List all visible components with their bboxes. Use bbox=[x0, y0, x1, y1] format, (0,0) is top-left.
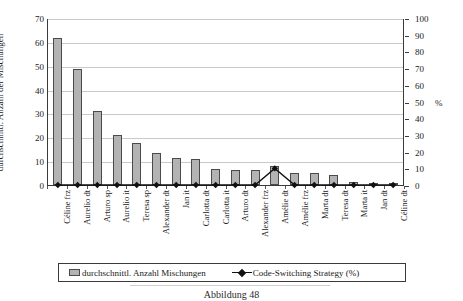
y-tick-label: 10 bbox=[35, 158, 44, 167]
line-marker-icon bbox=[232, 269, 252, 277]
x-label-slot: Céline frz bbox=[47, 188, 67, 254]
x-label-slot: Aurelio dt bbox=[67, 188, 87, 254]
bar-swatch-icon bbox=[69, 269, 80, 276]
y2-tick-label: 100 bbox=[415, 15, 429, 24]
x-label-slot: Jan dt bbox=[364, 188, 384, 254]
y2-tick-mark bbox=[405, 69, 409, 70]
y-tick-label: 70 bbox=[35, 15, 44, 24]
plot-area bbox=[47, 19, 404, 186]
y2-tick-mark bbox=[405, 52, 409, 53]
y2-tick-label: 40 bbox=[415, 115, 424, 124]
y2-tick-label: 0 bbox=[415, 182, 420, 191]
chart-figure: durchschnittl. Anzahl der Mischungen 010… bbox=[0, 0, 463, 301]
y2-tick-mark bbox=[405, 86, 409, 87]
legend-item-line: Code-Switching Strategy (%) bbox=[232, 268, 359, 278]
x-label-slot: Amélie frz bbox=[285, 188, 305, 254]
y2-tick-label: 50 bbox=[415, 98, 424, 107]
line-path bbox=[58, 168, 393, 185]
x-label-slot: Céline dt bbox=[384, 188, 404, 254]
chart-legend: durchschnittl. Anzahl Mischungen Code-Sw… bbox=[58, 263, 406, 282]
percent-axis-label: % bbox=[435, 98, 443, 107]
legend-label-line: Code-Switching Strategy (%) bbox=[253, 268, 359, 278]
legend-label-bars: durchschnittl. Anzahl Mischungen bbox=[82, 268, 206, 278]
x-label-slot: Carlotta it bbox=[206, 188, 226, 254]
y-tick-label: 0 bbox=[40, 182, 45, 191]
y2-tick-mark bbox=[405, 169, 409, 170]
x-label-slot: Alexander dt bbox=[146, 188, 166, 254]
x-label-slot: Alexander frz bbox=[245, 188, 265, 254]
x-label-slot: Teresa dt bbox=[325, 188, 345, 254]
y-tick-label: 30 bbox=[35, 110, 44, 119]
x-label-slot: Amélie dt bbox=[265, 188, 285, 254]
x-label-slot: Arturo sp bbox=[87, 188, 107, 254]
x-label-slot: Teresa sp bbox=[126, 188, 146, 254]
y2-tick-label: 10 bbox=[415, 165, 424, 174]
y2-tick-label: 70 bbox=[415, 65, 424, 74]
y2-tick-mark bbox=[405, 136, 409, 137]
y-axis-left: 010203040506070 bbox=[18, 19, 44, 186]
y2-tick-label: 60 bbox=[415, 81, 424, 90]
x-label-slot: Jan it bbox=[166, 188, 186, 254]
y2-tick-label: 80 bbox=[415, 48, 424, 57]
y2-tick-mark bbox=[405, 153, 409, 154]
x-tick bbox=[404, 186, 405, 189]
y2-tick-label: 30 bbox=[415, 131, 424, 140]
legend-item-bars: durchschnittl. Anzahl Mischungen bbox=[69, 268, 206, 278]
y2-tick-label: 20 bbox=[415, 148, 424, 157]
y-tick-label: 40 bbox=[35, 86, 44, 95]
y-axis-right: 0102030405060708090100% bbox=[409, 19, 439, 186]
y2-tick-mark bbox=[405, 36, 409, 37]
figure-caption: Abbildung 48 bbox=[0, 289, 463, 301]
y2-tick-mark bbox=[405, 119, 409, 120]
y-tick-label: 20 bbox=[35, 134, 44, 143]
y2-tick-mark bbox=[405, 186, 409, 187]
x-label-slot: Carlotta dt bbox=[186, 188, 206, 254]
x-label-slot: Marta dt bbox=[305, 188, 325, 254]
y-tick-label: 60 bbox=[35, 38, 44, 47]
y-axis-title: durchschnittl. Anzahl der Mischungen bbox=[0, 19, 9, 186]
x-axis-labels: Céline frzAurelio dtArturo spAurelio itT… bbox=[47, 188, 404, 254]
x-axis-label: Céline dt bbox=[399, 190, 409, 221]
y-tick-label: 50 bbox=[35, 62, 44, 71]
x-label-slot: Aurelio it bbox=[106, 188, 126, 254]
x-label-slot: Marta it bbox=[344, 188, 364, 254]
y2-tick-mark bbox=[405, 19, 409, 20]
line-series bbox=[48, 19, 403, 185]
x-label-slot: Arturo dt bbox=[225, 188, 245, 254]
y2-tick-mark bbox=[405, 103, 409, 104]
y2-tick-label: 90 bbox=[415, 31, 424, 40]
caption-rule bbox=[130, 285, 330, 286]
